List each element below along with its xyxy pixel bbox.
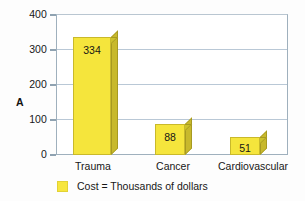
legend-swatch-icon	[57, 181, 68, 192]
x-axis-label-cancer: Cancer	[138, 161, 208, 172]
y-axis-label-0: 0	[7, 149, 47, 160]
bar-cardiovascular[interactable]: 51	[230, 14, 260, 155]
bar-trauma-side	[111, 30, 118, 155]
bar-cancer[interactable]: 88	[155, 14, 185, 155]
x-axis-label-trauma: Trauma	[58, 161, 128, 172]
y-axis-label-200: 200	[7, 79, 47, 90]
bar-trauma[interactable]: 334	[73, 14, 111, 155]
legend-label: Cost = Thousands of dollars	[77, 181, 208, 192]
panel-letter: A	[16, 96, 24, 108]
y-axis-label-400: 400	[7, 9, 47, 20]
y-axis-label-100: 100	[7, 114, 47, 125]
legend: Cost = Thousands of dollars	[57, 181, 208, 192]
bar-value-trauma: 334	[73, 45, 111, 56]
y-axis-label-300: 300	[7, 44, 47, 55]
x-axis-label-cardiovascular: Cardiovascular	[208, 161, 298, 172]
bar-chart-figure: A 400 300 200 100 0 334 88 51 Trauma Can…	[0, 0, 305, 201]
bar-value-cardiovascular: 51	[230, 143, 260, 154]
bar-value-cancer: 88	[155, 132, 185, 143]
